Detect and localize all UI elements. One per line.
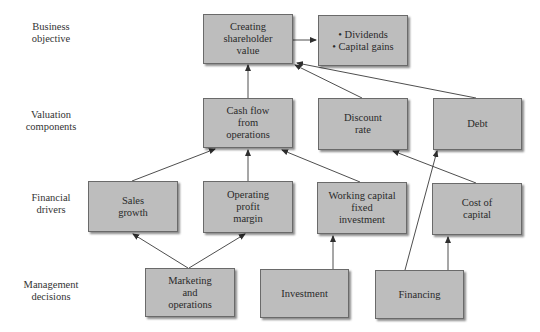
node-financing: Financing [375,270,464,319]
node-line: Cash flow [227,105,270,117]
node-line: Working capital [328,190,395,202]
arrow-marketing-to-margin [189,234,245,268]
bullet-capital-gains: • Capital gains [332,41,393,53]
node-operating-profit-margin: Operating profit margin [203,181,293,233]
node-debt: Debt [433,98,522,150]
node-line: operations [168,299,212,311]
node-discount-rate: Discount rate [318,98,408,150]
node-marketing-and-operations: Marketing and operations [145,268,235,317]
node-line: Investment [281,288,328,300]
node-line: investment [339,214,385,226]
node-line: growth [118,207,148,219]
node-line: Marketing [168,275,212,287]
node-investment: Investment [260,269,349,318]
node-line: Creating [230,21,266,33]
bullet-dividends: • Dividends [338,29,387,41]
node-line: Sales [122,195,144,207]
arrow-marketing-to-sales [133,234,188,268]
node-line: capital [463,209,491,221]
node-line: margin [233,213,263,225]
node-line: from [238,117,258,129]
node-line: value [237,45,260,57]
node-line: profit [236,201,259,213]
node-line: rate [355,124,371,136]
arrow-workingcap-to-cashflow [282,150,360,182]
node-dividends-capital-gains: • Dividends • Capital gains [318,15,408,66]
arrow-costcap-to-discount [393,151,476,183]
node-line: Cost of [462,197,493,209]
node-cash-flow-from-operations: Cash flow from operations [203,98,293,148]
node-line: fixed [351,202,373,214]
node-line: shareholder [224,33,273,45]
node-line: Discount [344,112,382,124]
node-line: and [182,287,197,299]
node-cost-of-capital: Cost of capital [432,183,522,235]
node-sales-growth: Sales growth [88,181,178,232]
node-line: operations [226,129,270,141]
node-line: Debt [467,118,487,130]
node-working-capital-fixed-investment: Working capital fixed investment [317,182,407,234]
arrow-discount-to-value [295,65,362,98]
node-line: Operating [227,189,269,201]
node-creating-shareholder-value: Creating shareholder value [203,14,293,64]
arrow-debt-to-value [297,63,476,98]
arrow-sales-to-cashflow [132,149,215,181]
node-line: Financing [399,289,441,301]
